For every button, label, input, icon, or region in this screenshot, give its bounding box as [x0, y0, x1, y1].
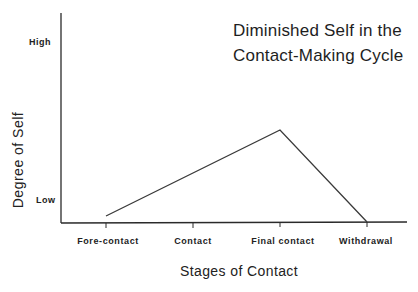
x-tick-label-contact: Contact: [174, 236, 212, 246]
x-axis-label: Stages of Contact: [0, 263, 418, 279]
x-axis: [61, 222, 407, 223]
x-tick-label-withdrawal: Withdrawal: [339, 236, 393, 246]
data-line: [106, 130, 367, 222]
x-tick-label-fore-contact: Fore-contact: [77, 236, 139, 246]
x-tick-label-final-contact: Final contact: [251, 236, 314, 246]
plot-area: [0, 0, 418, 292]
